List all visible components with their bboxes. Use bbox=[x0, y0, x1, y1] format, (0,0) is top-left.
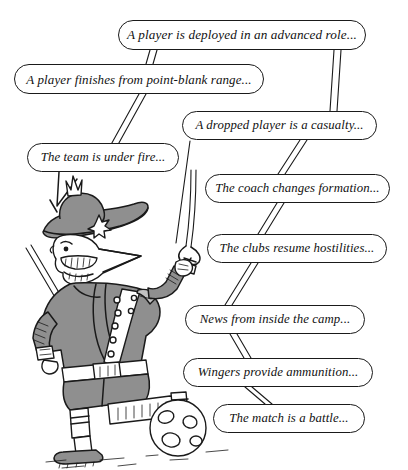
bubble-point-blank-range[interactable]: A player finishes from point-blank range… bbox=[14, 64, 264, 94]
bubble-deployed-advanced-role[interactable]: A player is deployed in an advanced role… bbox=[118, 20, 366, 50]
bubble-news-inside-camp[interactable]: News from inside the camp... bbox=[185, 305, 365, 334]
bubble-dropped-player-casualty[interactable]: A dropped player is a casualty... bbox=[182, 111, 377, 140]
cartoon-canvas: .ink { fill:none; stroke:#1a1a1a; stroke… bbox=[0, 0, 408, 470]
bubble-team-under-fire[interactable]: The team is under fire... bbox=[27, 143, 179, 172]
sabre bbox=[179, 170, 200, 274]
bubble-text: The team is under fire... bbox=[41, 151, 166, 164]
bubble-coach-changes-formation[interactable]: The coach changes formation... bbox=[205, 174, 390, 203]
bubble-text: A player finishes from point-blank range… bbox=[26, 72, 251, 85]
bubble-text: Wingers provide ammunition... bbox=[198, 366, 359, 379]
bubble-text: The match is a battle... bbox=[229, 412, 348, 425]
bubble-text: The coach changes formation... bbox=[215, 182, 379, 195]
right-arm bbox=[148, 260, 192, 299]
bubble-text: The clubs resume hostilities... bbox=[220, 242, 375, 255]
football bbox=[150, 400, 206, 456]
bubble-text: News from inside the camp... bbox=[200, 313, 351, 326]
bubble-clubs-resume-hostilities[interactable]: The clubs resume hostilities... bbox=[207, 234, 387, 263]
bubble-text: A dropped player is a casualty... bbox=[195, 119, 363, 132]
bubble-text: A player is deployed in an advanced role… bbox=[127, 28, 357, 41]
bubble-wingers-provide-ammunition[interactable]: Wingers provide ammunition... bbox=[183, 358, 373, 387]
bubble-match-is-a-battle[interactable]: The match is a battle... bbox=[213, 404, 365, 433]
officer-head bbox=[50, 235, 141, 285]
